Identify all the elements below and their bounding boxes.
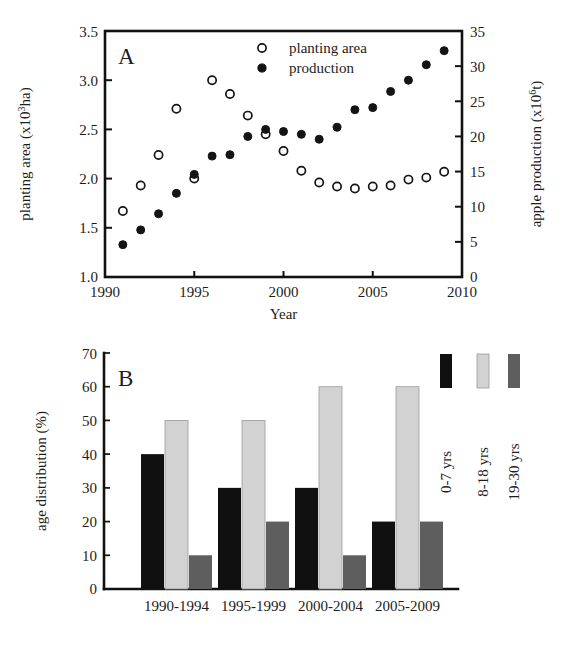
data-point — [154, 151, 162, 159]
panel-a-right-axis-title: apple production (x106t) — [527, 81, 545, 228]
data-point — [244, 132, 252, 140]
data-point — [137, 226, 145, 234]
legend-label-8-18-yrs: 8-18 yrs — [475, 447, 491, 497]
panel-a-left-ticklabels: 1.0 1.5 2.0 2.5 3.0 3.5 — [79, 24, 98, 285]
data-point — [440, 168, 448, 176]
panel-b-bar-group — [141, 387, 443, 589]
bar — [218, 488, 241, 589]
panel-a-left-axis-title-main: planting area (x10 — [17, 112, 34, 221]
panel-a-left-tick-3.0: 3.0 — [79, 73, 98, 89]
data-point — [244, 112, 252, 120]
panel-b-category-label: 1990-1994 — [144, 598, 209, 614]
data-point — [226, 90, 234, 98]
panel-a-x-tick-2005: 2005 — [358, 284, 388, 300]
data-point — [190, 170, 198, 178]
panel-b-y-tick-30: 30 — [82, 480, 97, 496]
figure-container: A 1.0 1.5 2.0 2.5 3.0 3.5 — [0, 0, 564, 649]
panel-a-x-ticklabels: 1990 1995 2000 2005 2010 — [90, 284, 477, 300]
data-point — [208, 76, 216, 84]
panel-a-left-tick-3.5: 3.5 — [79, 24, 98, 40]
svg-text:planting area (x103ha): planting area (x103ha) — [16, 87, 34, 220]
data-point — [297, 130, 305, 138]
panel-a-right-ticklabels: 0 5 10 15 20 25 30 35 — [470, 24, 485, 285]
panel-a-right-tick-5: 5 — [470, 234, 478, 250]
data-point — [440, 47, 448, 55]
data-point — [333, 182, 341, 190]
panel-a-left-tick-1.0: 1.0 — [79, 269, 98, 285]
panel-a-right-tick-35: 35 — [470, 24, 485, 40]
panel-a-legend: planting area production — [258, 40, 367, 76]
panel-a-left-tick-2.0: 2.0 — [79, 171, 98, 187]
panel-b-y-tick-10: 10 — [82, 548, 97, 564]
legend-swatch-0-7-yrs — [440, 354, 452, 388]
data-point — [351, 184, 359, 192]
panel-a-right-tick-15: 15 — [470, 164, 485, 180]
panel-b-y-ticklabels: 0 10 20 30 40 50 60 70 — [82, 346, 97, 598]
legend-label-0-7-yrs: 0-7 yrs — [438, 451, 454, 493]
data-point — [119, 207, 127, 215]
panel-a-x-tick-1990: 1990 — [90, 284, 120, 300]
panel-b-y-tick-70: 70 — [82, 346, 97, 362]
panel-b-y-axis-title: age distribution (%) — [33, 411, 50, 531]
panel-b-y-tick-0: 0 — [90, 581, 98, 597]
legend-swatch-8-18-yrs — [477, 354, 489, 388]
bar — [343, 555, 366, 589]
bar — [141, 454, 164, 589]
data-point — [387, 87, 395, 95]
panel-a-x-tick-1995: 1995 — [179, 284, 209, 300]
panel-b-svg: B 0 10 20 30 40 50 60 70 — [0, 320, 564, 649]
panel-b-letter: B — [118, 366, 133, 391]
panel-b-y-tick-20: 20 — [82, 514, 97, 530]
data-point — [422, 61, 430, 69]
data-point — [422, 174, 430, 182]
panel-a-right-tick-30: 30 — [470, 59, 485, 75]
panel-a-x-tick-2010: 2010 — [447, 284, 477, 300]
panel-b-category-label: 1995-1999 — [221, 598, 286, 614]
panel-a-right-tick-10: 10 — [470, 199, 485, 215]
bar — [319, 387, 342, 589]
bar — [396, 387, 419, 589]
panel-a-scatter-chart: A 1.0 1.5 2.0 2.5 3.0 3.5 — [0, 0, 564, 320]
bar — [420, 522, 443, 589]
data-point — [404, 76, 412, 84]
data-point — [172, 189, 180, 197]
bar — [295, 488, 318, 589]
legend-swatch-19-30-yrs — [508, 354, 520, 388]
panel-b-y-tick-60: 60 — [82, 379, 97, 395]
legend-label-production: production — [289, 60, 354, 76]
data-point — [262, 125, 270, 133]
bar — [165, 420, 188, 589]
panel-a-left-tick-2.5: 2.5 — [79, 122, 98, 138]
panel-a-left-axis-title: planting area (x103ha) — [16, 87, 34, 220]
panel-a-right-tick-20: 20 — [470, 129, 485, 145]
legend-filled-circle-marker — [258, 64, 266, 72]
panel-a-x-axis-title: Year — [270, 306, 298, 320]
legend-label-planting-area: planting area — [289, 40, 367, 56]
bar — [242, 420, 265, 589]
data-point — [119, 241, 127, 249]
data-point — [297, 167, 305, 175]
series-planting-area-points — [119, 76, 449, 215]
bar — [189, 555, 212, 589]
panel-b-category-label: 2005-2009 — [375, 598, 440, 614]
data-point — [155, 210, 163, 218]
panel-a-right-tick-25: 25 — [470, 94, 485, 110]
panel-a-left-tick-1.5: 1.5 — [79, 220, 98, 236]
legend-label-19-30-yrs: 19-30 yrs — [506, 443, 522, 500]
panel-a-svg: A 1.0 1.5 2.0 2.5 3.0 3.5 — [0, 0, 564, 320]
data-point — [387, 181, 395, 189]
data-point — [333, 123, 341, 131]
svg-text:apple production (x106t): apple production (x106t) — [527, 81, 545, 228]
panel-b-category-labels: 1990-19941995-19992000-20042005-2009 — [144, 598, 440, 614]
panel-a-left-axis-title-tail: ha) — [17, 87, 34, 106]
panel-b-legend: 0-7 yrs 8-18 yrs 19-30 yrs — [438, 354, 522, 501]
data-point — [172, 105, 180, 113]
panel-a-letter: A — [118, 44, 135, 69]
data-point — [351, 106, 359, 114]
panel-a-x-tick-2000: 2000 — [269, 284, 299, 300]
legend-open-circle-marker — [258, 44, 266, 52]
data-point — [315, 135, 323, 143]
panel-b-y-tick-40: 40 — [82, 447, 97, 463]
data-point — [208, 152, 216, 160]
bar — [266, 522, 289, 589]
